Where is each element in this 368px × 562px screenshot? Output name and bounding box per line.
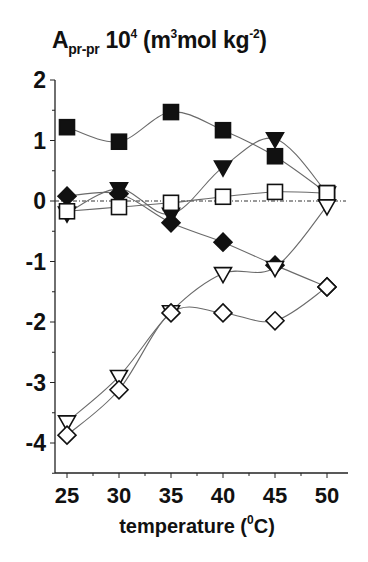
filled-diamond-line [67, 192, 327, 287]
open-diamond-marker [58, 426, 76, 444]
filled-diamond-marker [58, 187, 76, 205]
y-tick-label: 2 [33, 67, 46, 93]
series-lines [67, 112, 327, 435]
series-markers [58, 105, 336, 445]
filled-triangle-down-line [67, 138, 327, 215]
filled-diamond-marker [214, 233, 232, 251]
x-tick-label: 35 [159, 483, 183, 508]
filled-square-line [67, 112, 327, 193]
open-triangle-down-marker [215, 268, 232, 283]
filled-square-marker [164, 105, 179, 120]
open-square-marker [216, 189, 231, 204]
filled-triangle-down-marker [215, 161, 232, 176]
open-diamond-marker [214, 304, 232, 322]
filled-square-marker [216, 123, 231, 138]
y-tick-label: -1 [26, 249, 47, 275]
filled-diamond-marker [162, 214, 180, 232]
open-square-marker [268, 184, 283, 199]
filled-triangle-down-marker [267, 133, 284, 148]
y-tick-label: 0 [33, 188, 46, 214]
y-tick-label: 1 [33, 128, 46, 154]
open-diamond-line [67, 287, 327, 435]
x-tick-label: 40 [211, 483, 235, 508]
open-square-marker [112, 200, 127, 215]
filled-square-marker [60, 120, 75, 135]
x-axis-label: temperature (0C) [0, 513, 368, 538]
filled-square-marker [112, 134, 127, 149]
x-tick-label: 25 [55, 483, 79, 508]
x-tick-label: 45 [263, 483, 287, 508]
filled-square-marker [268, 149, 283, 164]
y-tick-label: -2 [26, 309, 46, 335]
open-diamond-marker [318, 278, 336, 296]
open-square-marker [60, 204, 75, 219]
line-chart: 210-1-2-3-4253035404550 [0, 0, 368, 562]
x-tick-label: 50 [315, 483, 339, 508]
open-triangle-down-line [67, 206, 327, 422]
open-triangle-down-marker [319, 200, 336, 215]
open-square-marker [164, 195, 179, 210]
x-tick-label: 30 [107, 483, 131, 508]
open-square-marker [320, 186, 335, 201]
y-tick-label: -4 [26, 430, 47, 456]
open-diamond-marker [266, 312, 284, 330]
y-tick-label: -3 [26, 370, 46, 396]
